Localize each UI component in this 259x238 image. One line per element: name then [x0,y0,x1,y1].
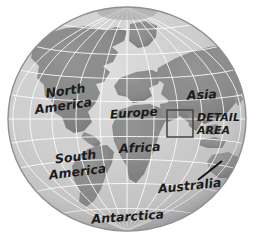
label-asia: Asia [185,86,217,103]
detail-area-label-line2: AREA [196,124,230,137]
landmass-new-zealand [246,180,254,190]
globe-illustration: North America Europe Asia Africa South A… [0,0,259,238]
label-africa: Africa [118,139,161,156]
detail-area-label-line1: DETAIL [197,111,240,124]
globe-figure: North America Europe Asia Africa South A… [0,0,259,238]
